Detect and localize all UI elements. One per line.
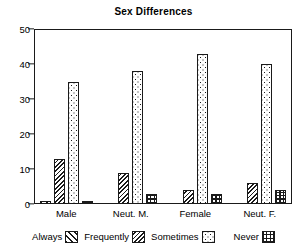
legend-item[interactable]: Frequently xyxy=(84,231,145,243)
bar-group xyxy=(163,29,228,204)
y-axis-tick-label: 10 xyxy=(4,165,30,175)
legend-item[interactable]: Never xyxy=(234,231,275,243)
x-axis-category-label: Neut. M. xyxy=(99,208,164,219)
chart-legend: AlwaysFrequentlySometimesNever xyxy=(0,228,307,246)
bar-group xyxy=(99,29,164,204)
bar[interactable] xyxy=(197,54,208,205)
legend-item-label: Frequently xyxy=(84,232,129,242)
chart-title: Sex Differences xyxy=(0,6,307,18)
legend-item-label: Always xyxy=(32,232,62,242)
bar[interactable] xyxy=(146,194,157,205)
legend-item[interactable]: Sometimes xyxy=(151,231,215,243)
y-axis-tick-label: 50 xyxy=(4,25,30,35)
x-axis-category-labels: MaleNeut. M.FemaleNeut. F. xyxy=(34,208,292,222)
legend-swatch-icon xyxy=(65,231,78,243)
bar-group xyxy=(34,29,99,204)
bar[interactable] xyxy=(118,173,129,205)
bar[interactable] xyxy=(40,201,51,205)
legend-item-label: Never xyxy=(234,232,259,242)
legend-item-label: Sometimes xyxy=(151,232,199,242)
bar-chart: Sex Differences 01020304050 MaleNeut. M.… xyxy=(0,0,307,252)
y-axis-tick-label: 20 xyxy=(4,130,30,140)
bar[interactable] xyxy=(247,183,258,204)
bar[interactable] xyxy=(54,159,65,205)
legend-swatch-icon xyxy=(132,231,145,243)
bar[interactable] xyxy=(275,190,286,204)
x-axis-category-label: Neut. F. xyxy=(228,208,293,219)
bar[interactable] xyxy=(132,71,143,204)
bar-group xyxy=(228,29,293,204)
legend-item[interactable]: Always xyxy=(32,231,78,243)
y-axis-tick-label: 0 xyxy=(4,200,30,210)
legend-swatch-icon xyxy=(262,231,275,243)
bar[interactable] xyxy=(82,201,93,205)
bar[interactable] xyxy=(261,64,272,204)
x-axis-category-label: Male xyxy=(34,208,99,219)
bar[interactable] xyxy=(183,190,194,204)
x-axis-category-label: Female xyxy=(163,208,228,219)
bar[interactable] xyxy=(68,82,79,205)
bars-layer xyxy=(34,29,292,204)
y-axis-tick-label: 30 xyxy=(4,95,30,105)
y-axis-tick-labels: 01020304050 xyxy=(0,29,30,204)
legend-swatch-icon xyxy=(202,231,215,243)
bar[interactable] xyxy=(211,194,222,205)
y-axis-tick-label: 40 xyxy=(4,60,30,70)
